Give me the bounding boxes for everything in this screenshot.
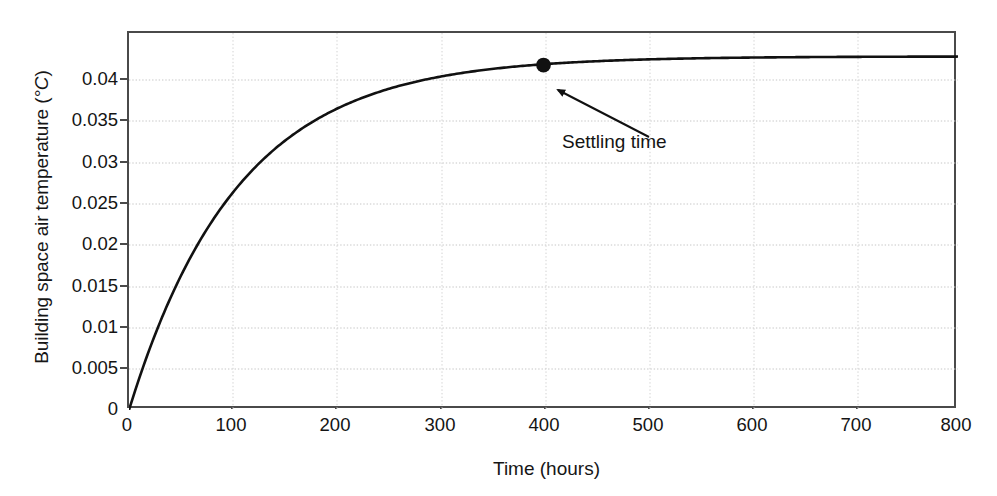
y-tick-label-0.02: 0.02 — [0, 233, 118, 255]
y-tick-label-0.015: 0.015 — [0, 275, 118, 297]
y-tick-label-0.03: 0.03 — [0, 151, 118, 173]
x-tick-label-100: 100 — [201, 414, 261, 436]
x-tick-label-200: 200 — [305, 414, 365, 436]
x-tick-label-800: 800 — [926, 414, 986, 436]
x-tick-label-400: 400 — [514, 414, 574, 436]
x-tick-label-600: 600 — [722, 414, 782, 436]
settling-time-annotation-label: Settling time — [562, 131, 667, 153]
response-curve — [129, 57, 958, 410]
plot-canvas — [129, 33, 958, 410]
x-tick-label-0: 0 — [97, 414, 157, 436]
y-tick-label-0.01: 0.01 — [0, 316, 118, 338]
y-tick-label-0.025: 0.025 — [0, 192, 118, 214]
plot-area — [127, 31, 956, 408]
y-tick-label-0.035: 0.035 — [0, 109, 118, 131]
grid-horizontal — [129, 80, 958, 369]
chart-figure: Building space air temperature (°C) 0.04… — [0, 0, 997, 496]
grid-vertical — [233, 33, 858, 410]
x-axis-title: Time (hours) — [0, 458, 997, 480]
x-tick-label-300: 300 — [410, 414, 470, 436]
settling-time-arrow — [558, 90, 649, 137]
x-axis-title-text: Time (hours) — [493, 458, 600, 480]
settling-time-marker — [536, 58, 551, 73]
y-tick-label-0.005: 0.005 — [0, 357, 118, 379]
y-tick-label-0.04: 0.04 — [0, 68, 118, 90]
x-tick-label-700: 700 — [826, 414, 886, 436]
x-tick-label-500: 500 — [618, 414, 678, 436]
